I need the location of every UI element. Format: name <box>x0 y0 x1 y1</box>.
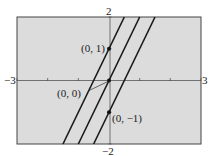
annotation-0-0: (0, 0) <box>57 87 81 100</box>
intercept-point <box>107 47 111 51</box>
annotation-0-minus1: (0, −1) <box>112 112 142 125</box>
x-max-label: 3 <box>202 74 208 86</box>
y-max-label: 2 <box>106 5 112 17</box>
y-min-label: −2 <box>102 145 114 156</box>
x-min-label: −3 <box>4 74 16 86</box>
intercept-point <box>107 110 111 114</box>
graph: −3 3 2 −2 (0, 1) (0, 0) (0, −1) <box>0 0 211 156</box>
annotation-0-1: (0, 1) <box>81 42 105 55</box>
